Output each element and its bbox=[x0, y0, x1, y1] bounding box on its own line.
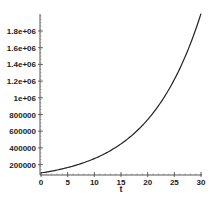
y-tick-label: 400000 bbox=[9, 144, 36, 153]
x-tick-label: 5 bbox=[65, 178, 70, 187]
y-tick-label: 1.2e+06 bbox=[7, 77, 37, 86]
data-line bbox=[41, 14, 201, 173]
x-tick-label: 0 bbox=[39, 178, 44, 187]
y-tick-label: 1.6e+06 bbox=[7, 44, 37, 53]
y-tick-label: 1.4e+06 bbox=[7, 60, 37, 69]
y-tick-label: 800000 bbox=[9, 111, 36, 120]
x-tick-label: 30 bbox=[197, 178, 206, 187]
x-tick-label: 25 bbox=[170, 178, 179, 187]
y-tick-label: 200000 bbox=[9, 161, 36, 170]
y-tick-label: 1.8e+06 bbox=[7, 27, 37, 36]
chart: 2000004000006000008000001e+061.2e+061.4e… bbox=[0, 0, 216, 199]
x-axis-label: t bbox=[120, 184, 123, 194]
x-tick-label: 20 bbox=[143, 178, 152, 187]
y-tick-label: 600000 bbox=[9, 127, 36, 136]
y-axis: 2000004000006000008000001e+061.2e+061.4e… bbox=[7, 14, 43, 175]
x-tick-label: 10 bbox=[90, 178, 99, 187]
y-tick-label: 1e+06 bbox=[14, 94, 37, 103]
